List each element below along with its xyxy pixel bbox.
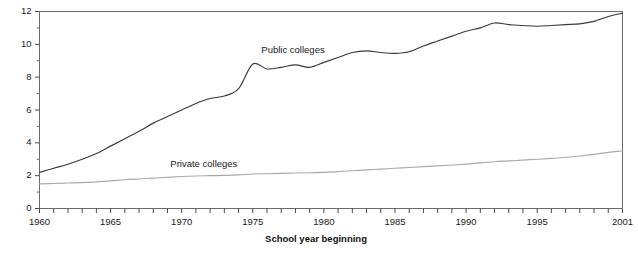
series-line bbox=[40, 13, 623, 172]
x-tick-label: 1995 bbox=[527, 216, 548, 227]
y-tick-label: 4 bbox=[26, 136, 31, 147]
x-tick-label: 1990 bbox=[456, 216, 477, 227]
y-axis-tick-labels: 024681012 bbox=[21, 5, 32, 213]
x-tick-label: 1975 bbox=[242, 216, 263, 227]
line-chart: 024681012 196019651970197519801985199019… bbox=[0, 0, 638, 253]
y-tick-label: 2 bbox=[26, 169, 31, 180]
x-tick-label: 1970 bbox=[171, 216, 192, 227]
series-annotations: Public collegesPrivate colleges bbox=[170, 44, 325, 169]
y-tick-label: 8 bbox=[26, 71, 31, 82]
x-tick-label: 2001 bbox=[612, 216, 633, 227]
chart-container: 024681012 196019651970197519801985199019… bbox=[0, 0, 638, 253]
x-axis-ticks bbox=[40, 209, 623, 214]
plot-border bbox=[40, 12, 623, 209]
y-tick-label: 0 bbox=[26, 202, 31, 213]
y-axis-ticks bbox=[35, 12, 40, 209]
x-tick-label: 1980 bbox=[313, 216, 334, 227]
y-tick-label: 12 bbox=[21, 5, 32, 16]
data-series-lines bbox=[40, 13, 623, 184]
x-tick-label: 1965 bbox=[100, 216, 121, 227]
series-label: Private colleges bbox=[170, 158, 237, 169]
x-axis-title: School year beginning bbox=[265, 233, 367, 244]
x-axis-tick-labels: 196019651970197519801985199019952001 bbox=[29, 216, 633, 227]
series-line bbox=[40, 151, 623, 184]
x-tick-label: 1960 bbox=[29, 216, 50, 227]
series-label: Public colleges bbox=[261, 44, 325, 55]
plot-frame bbox=[40, 12, 623, 209]
y-tick-label: 10 bbox=[21, 38, 32, 49]
x-tick-label: 1985 bbox=[384, 216, 405, 227]
y-tick-label: 6 bbox=[26, 104, 31, 115]
